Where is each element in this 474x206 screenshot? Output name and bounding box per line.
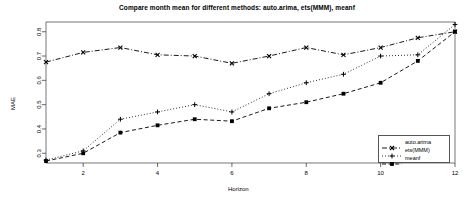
marker-square: [81, 151, 85, 155]
x-tick-label: 6: [230, 170, 234, 176]
y-tick-label: 0.4: [36, 124, 42, 133]
marker-square: [156, 123, 160, 127]
legend-item-ets-mmm-: ets(MMM): [381, 146, 446, 154]
x-tick-label: 12: [452, 170, 459, 176]
legend-item-meanf: meanf: [381, 154, 446, 162]
y-tick-label: 0.7: [36, 51, 42, 60]
x-tick-label: 10: [377, 170, 384, 176]
legend-marker-glyph: [381, 160, 403, 168]
marker-square: [453, 30, 457, 34]
y-tick-label: 0.5: [36, 100, 42, 109]
marker-square: [304, 100, 308, 104]
legend-label: ets(MMM): [403, 146, 430, 154]
legend-label: meanf: [403, 154, 420, 162]
marker-square: [118, 131, 122, 135]
y-tick-label: 0.6: [36, 76, 42, 85]
marker-square: [390, 162, 394, 166]
legend: auto.arimaets(MMM)meanf: [378, 135, 450, 163]
marker-square: [193, 117, 197, 121]
marker-square: [379, 81, 383, 85]
plot-area: 246810120.30.40.50.60.70.8: [0, 0, 474, 206]
y-tick-label: 0.3: [36, 148, 42, 157]
series-line: [46, 32, 455, 64]
marker-square: [230, 119, 234, 123]
y-tick-label: 0.8: [36, 27, 42, 36]
x-tick-label: 4: [156, 170, 160, 176]
legend-marker-square-icon: [381, 154, 403, 162]
marker-square: [44, 159, 48, 163]
x-tick-label: 8: [305, 170, 309, 176]
legend-label: auto.arima: [403, 138, 431, 146]
marker-square: [342, 92, 346, 96]
legend-item-auto-arima: auto.arima: [381, 138, 446, 146]
chart-root: Compare month mean for different methods…: [0, 0, 474, 206]
legend-marker-plus-icon: [381, 146, 403, 154]
x-tick-label: 2: [82, 170, 86, 176]
legend-marker-x-icon: [381, 138, 403, 146]
series-auto-arima: [44, 30, 457, 66]
marker-square: [416, 59, 420, 63]
marker-square: [267, 106, 271, 110]
